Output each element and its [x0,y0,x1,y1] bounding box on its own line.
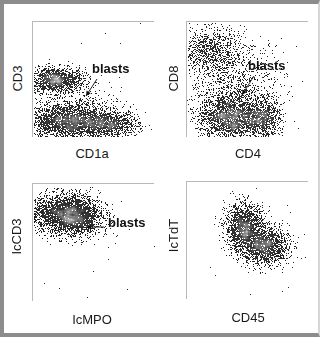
scatter-points [187,182,309,300]
y-axis-label: IcTdT [166,211,181,261]
scatter-plot-cd45-vs-ictdt [186,181,308,299]
x-axis-label: CD45 [218,310,278,325]
